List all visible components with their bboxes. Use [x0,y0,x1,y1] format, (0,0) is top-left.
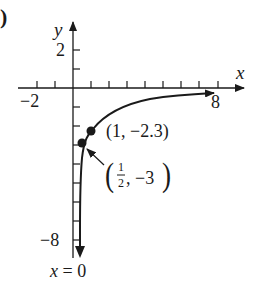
svg-text:1: 1 [118,160,124,174]
point-half-neg3 [78,139,87,148]
tick-label-2: 2 [56,40,65,60]
tick-label-8: 8 [211,92,220,112]
curve-down-arrow [75,246,85,258]
x-axis-label: x [235,62,245,83]
point-1-neg2-3 [87,127,96,136]
x-ticks [37,81,218,88]
y-axis-label: y [52,19,63,40]
pointer-arrow [87,149,104,165]
svg-text:2: 2 [118,176,124,190]
svg-text:): ) [162,156,171,194]
chart: y x 2 −2 8 −8 (1, −2.3) ( 1 2 , −3 ) x =… [0,0,255,289]
svg-text:, −3: , −3 [126,168,154,188]
tick-label-neg8: −8 [40,230,59,250]
point-2-label: ( 1 2 , −3 ) [105,156,171,194]
tick-label-neg2: −2 [20,91,39,111]
svg-text:(: ( [105,156,114,194]
point-1-label: (1, −2.3) [106,121,169,142]
asymptote-label: x = 0 [49,261,86,281]
